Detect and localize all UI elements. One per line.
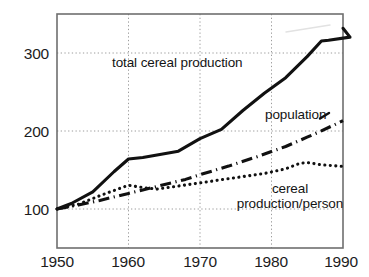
plot-background bbox=[57, 14, 343, 248]
annotation-total-cereal-production: total cereal production bbox=[112, 55, 243, 70]
y-axis-tick-200: 200 bbox=[3, 124, 49, 140]
x-axis-tick-1950: 1950 bbox=[27, 254, 87, 270]
chart-plot-svg bbox=[0, 0, 369, 277]
x-axis-tick-1980: 1980 bbox=[241, 254, 301, 270]
x-axis-tick-1990: 1990 bbox=[311, 254, 369, 270]
annotation-per-person-line-2: production/person bbox=[236, 196, 344, 211]
y-axis-tick-100: 100 bbox=[3, 202, 49, 218]
annotation-cereal-production-per-person: cereal production/person bbox=[236, 181, 344, 211]
x-axis-tick-1970: 1970 bbox=[170, 254, 230, 270]
annotation-per-person-line-1: cereal bbox=[236, 181, 344, 196]
y-axis-tick-300: 300 bbox=[3, 46, 49, 62]
x-axis-tick-1960: 1960 bbox=[98, 254, 158, 270]
annotation-population: population bbox=[265, 107, 326, 122]
chart-figure: 300 200 100 1950 1960 1970 1980 1990 tot… bbox=[0, 0, 369, 277]
